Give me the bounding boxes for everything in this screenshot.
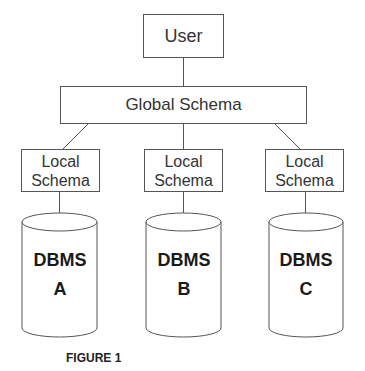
dbms-id-c: C (268, 279, 344, 300)
local-schema-label-line1: Local (285, 152, 323, 171)
local-schema-box-a: Local Schema (21, 149, 100, 192)
dbms-label-b: DBMS (146, 250, 222, 271)
dbms-id-a: A (22, 279, 98, 300)
dbms-label-c: DBMS (268, 250, 344, 271)
local-schema-label-line2: Schema (31, 171, 90, 190)
local-schema-label-line2: Schema (154, 171, 213, 190)
figure-caption: FIGURE 1 (66, 351, 121, 365)
global-schema-box: Global Schema (60, 86, 307, 124)
database-cylinder-a (22, 213, 97, 337)
local-schema-label-line2: Schema (275, 171, 334, 190)
database-cylinder-c (269, 213, 343, 337)
local-schema-box-b: Local Schema (144, 149, 223, 192)
global-schema-label: Global Schema (125, 96, 241, 114)
local-schema-label-line1: Local (41, 152, 79, 171)
local-schema-label-line1: Local (164, 152, 202, 171)
dbms-label-a: DBMS (22, 250, 98, 271)
database-cylinder-b (146, 213, 221, 337)
dbms-id-b: B (146, 279, 222, 300)
local-schema-box-c: Local Schema (265, 149, 344, 192)
connector-global-local-c (275, 124, 300, 149)
user-label: User (164, 27, 202, 45)
user-box: User (143, 14, 224, 58)
connector-global-local-a (63, 124, 88, 149)
